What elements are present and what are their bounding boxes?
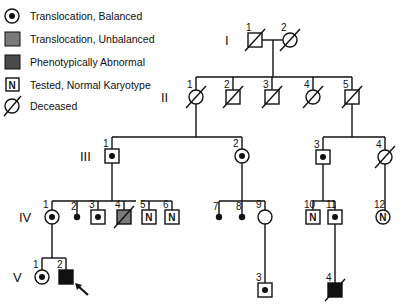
generation-label-II: II — [161, 90, 168, 105]
individual-number: 3 — [263, 79, 269, 90]
legend-item-abnormal: Phenotypically Abnormal — [5, 55, 145, 69]
unbalanced-square-icon — [5, 32, 20, 46]
tested-normal-mark: N — [309, 212, 316, 223]
tested-normal-mark: N — [379, 212, 386, 223]
individual-IV-9: 9 — [256, 199, 272, 224]
individual-V-1: 1 — [33, 259, 49, 284]
individual-number: 4 — [326, 272, 332, 283]
individual-IV-1: 1 — [43, 199, 59, 224]
individual-IV-6: N6 — [163, 199, 179, 224]
individual-number: 4 — [304, 79, 310, 90]
legend: Translocation, Balanced Translocation, U… — [4, 9, 155, 116]
tested-normal-mark: N — [145, 212, 152, 223]
individual-IV-8: 8 — [236, 201, 245, 220]
legend-label-deceased: Deceased — [30, 100, 77, 112]
balanced-carrier-dot — [239, 153, 245, 159]
individual-number: 2 — [57, 259, 63, 270]
legend-item-deceased: Deceased — [4, 96, 77, 116]
individual-III-1: 1 — [103, 138, 119, 163]
individual-number: 1 — [103, 138, 109, 149]
pregnancy-loss-dot — [239, 214, 245, 220]
individual-number: 3 — [314, 139, 320, 150]
individual-IV-12: N12 — [374, 199, 390, 224]
individual-number: 2 — [233, 138, 239, 149]
balanced-carrier-dot — [109, 153, 115, 159]
legend-label-balanced: Translocation, Balanced — [30, 10, 142, 22]
pregnancy-loss-dot — [216, 214, 222, 220]
individual-number: 5 — [140, 199, 146, 210]
balanced-carrier-dot — [320, 154, 326, 160]
individual-number: 2 — [224, 79, 230, 90]
pedigree-diagram: Translocation, Balanced Translocation, U… — [0, 0, 402, 307]
legend-item-balanced: Translocation, Balanced — [5, 9, 142, 23]
generation-label-V: V — [13, 270, 22, 285]
individual-V-2: 2 — [57, 259, 88, 295]
individual-number: 12 — [374, 199, 386, 210]
balanced-carrier-dot — [49, 214, 55, 220]
balanced-carrier-dot — [262, 287, 268, 293]
individual-number: 1 — [187, 79, 193, 90]
legend-label-unbalanced: Translocation, Unbalanced — [30, 33, 155, 45]
individual-number: 11 — [326, 199, 337, 210]
generation-label-I: I — [225, 33, 229, 48]
individual-number: 4 — [376, 139, 382, 150]
individual-III-3: 3 — [314, 139, 330, 164]
individual-IV-7: 7 — [213, 201, 222, 220]
individual-number: 8 — [236, 201, 242, 212]
abnormal-square-icon — [5, 55, 20, 69]
pregnancy-loss-dot — [74, 214, 80, 220]
female-circle-icon — [258, 210, 272, 224]
individual-I-2: 2 — [280, 22, 300, 51]
individual-IV-10: N10 — [304, 199, 320, 224]
generation-label-III: III — [80, 149, 91, 164]
balanced-carrier-dot — [332, 214, 338, 220]
individual-number: 1 — [43, 199, 49, 210]
individual-number: 3 — [256, 272, 262, 283]
individual-number: 7 — [213, 201, 219, 212]
individual-IV-2: 2 — [71, 201, 80, 220]
individual-number: 9 — [256, 199, 262, 210]
individual-V-3: 3 — [256, 272, 272, 297]
legend-item-tested: N Tested, Normal Karyotype — [6, 78, 151, 91]
individual-number: 10 — [304, 199, 316, 210]
individual-number: 5 — [343, 79, 349, 90]
individual-number: 4 — [115, 199, 121, 210]
individual-number: 2 — [281, 22, 287, 33]
individual-IV-3: 3 — [89, 199, 105, 224]
individual-I-1: 1 — [245, 22, 265, 51]
individual-IV-5: N5 — [140, 199, 156, 224]
balanced-carrier-dot — [95, 214, 101, 220]
tested-normal-mark: N — [168, 212, 175, 223]
male-square-icon — [59, 270, 73, 284]
legend-label-tested: Tested, Normal Karyotype — [30, 79, 151, 91]
generation-labels: I II III IV V — [13, 33, 229, 285]
pedigree-lines — [42, 40, 385, 283]
tested-mark: N — [9, 80, 16, 91]
individual-number: 2 — [71, 201, 77, 212]
individual-III-2: 2 — [233, 138, 249, 163]
individual-number: 1 — [33, 259, 39, 270]
legend-label-abnormal: Phenotypically Abnormal — [30, 56, 145, 68]
individual-number: 3 — [89, 199, 95, 210]
balanced-carrier-dot — [39, 274, 45, 280]
individual-number: 6 — [163, 199, 169, 210]
generation-label-IV: IV — [19, 210, 32, 225]
individual-number: 1 — [246, 22, 252, 33]
balanced-carrier-dot — [9, 13, 15, 19]
legend-item-unbalanced: Translocation, Unbalanced — [5, 32, 155, 46]
individual-IV-11: 11 — [326, 199, 342, 224]
